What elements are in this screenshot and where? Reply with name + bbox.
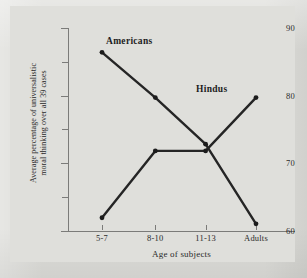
data-point-hindus-Adults — [254, 95, 259, 100]
markers-series-americans — [100, 50, 259, 226]
line-series-hindus — [102, 98, 256, 218]
y-axis-title: Average percentage of universalistic mor… — [29, 23, 49, 223]
data-point-hindus-8-10 — [153, 149, 158, 154]
data-point-americans-Adults — [254, 221, 259, 226]
line-series-americans — [102, 52, 256, 224]
chart-series-layer — [10, 6, 295, 262]
markers-series-hindus — [100, 95, 259, 220]
data-point-hindus-5-7 — [100, 215, 105, 220]
y-axis-title-line2: moral thinking over all 39 cases — [39, 70, 48, 176]
y-axis-title-line1: Average percentage of universalistic — [29, 63, 38, 183]
data-point-hindus-11-13 — [203, 149, 208, 154]
series-label-hindus: Hindus — [196, 84, 227, 94]
x-axis-title: Age of subjects — [68, 249, 295, 259]
data-point-americans-5-7 — [100, 50, 105, 55]
data-point-americans-8-10 — [153, 95, 158, 100]
data-point-americans-11-13 — [203, 142, 208, 147]
chart-plot-area: 90 80 70 60 5-7 8-10 11-13 Adults Americ… — [10, 6, 295, 262]
figure-page: 90 80 70 60 5-7 8-10 11-13 Adults Americ… — [0, 0, 307, 278]
series-label-americans: Americans — [106, 36, 153, 46]
